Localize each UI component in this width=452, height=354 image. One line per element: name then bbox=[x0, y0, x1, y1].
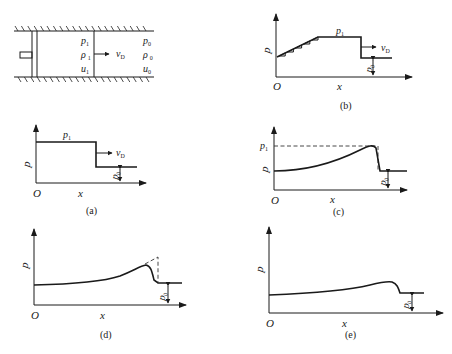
hatch-mark bbox=[50, 77, 53, 82]
origin-label: O bbox=[33, 187, 41, 199]
y-axis-label: p bbox=[257, 165, 270, 174]
x-axis-label: x bbox=[329, 193, 335, 205]
hatch-mark bbox=[44, 77, 47, 82]
y-axis-label: p bbox=[17, 261, 30, 270]
caption: (b) bbox=[340, 100, 352, 112]
pressure-profile bbox=[34, 265, 182, 285]
hatch-mark bbox=[66, 26, 69, 31]
hatch-mark bbox=[47, 26, 50, 31]
shock-wave-diagram: p1 ρ1 u1 vD p0 ρ0 u0 p O x p1 vD p0 (b) … bbox=[0, 0, 452, 354]
hatch-mark bbox=[143, 26, 146, 31]
caption: (d) bbox=[100, 329, 112, 341]
p0-label: p0 bbox=[362, 63, 375, 74]
hatch-mark bbox=[73, 26, 76, 31]
label-p0: p0 bbox=[142, 35, 151, 47]
piston-rod bbox=[20, 52, 32, 58]
y-axis-label: p bbox=[259, 46, 272, 55]
panel-a: p O x p1 vD p0 (a) bbox=[19, 125, 146, 217]
hatch-mark bbox=[53, 26, 56, 31]
origin-label: O bbox=[266, 317, 274, 329]
p1-label: p1 bbox=[335, 25, 344, 37]
hatch-mark bbox=[127, 77, 130, 82]
compression-steps bbox=[279, 37, 318, 56]
hatch-bottom bbox=[18, 77, 149, 82]
p1-label: p1 bbox=[62, 129, 71, 141]
hatch-mark bbox=[101, 77, 104, 82]
p0-label: p0 bbox=[399, 299, 412, 310]
panel-d: p O x p0 (d) bbox=[17, 229, 186, 341]
hatch-mark bbox=[124, 26, 127, 31]
y-axis-label: p bbox=[252, 265, 265, 274]
hatch-mark bbox=[117, 26, 120, 31]
ideal-profile-dashed bbox=[274, 146, 378, 171]
hatch-mark bbox=[56, 77, 59, 82]
origin-label: O bbox=[31, 309, 39, 321]
y-axis-label: p bbox=[19, 160, 32, 169]
hatch-mark bbox=[37, 77, 40, 82]
step-marker bbox=[312, 37, 318, 40]
hatch-mark bbox=[34, 26, 37, 31]
hatch-mark bbox=[98, 26, 101, 31]
pressure-profile bbox=[274, 146, 407, 171]
hatch-mark bbox=[60, 26, 63, 31]
hatch-mark bbox=[108, 77, 111, 82]
hatch-mark bbox=[82, 77, 85, 82]
panel-c: p1 p O x p0 (c) bbox=[257, 127, 407, 218]
vD-label: vD bbox=[116, 147, 125, 159]
label-u1: u1 bbox=[81, 63, 89, 75]
pressure-profile bbox=[269, 282, 424, 295]
x-axis-label: x bbox=[336, 80, 342, 92]
hatch-mark bbox=[130, 26, 133, 31]
tube-schematic: p1 ρ1 u1 vD p0 ρ0 u0 bbox=[14, 26, 154, 82]
label-rho1: ρ1 bbox=[80, 49, 91, 61]
hatch-mark bbox=[105, 26, 108, 31]
hatch-mark bbox=[28, 26, 31, 31]
origin-label: O bbox=[273, 80, 281, 92]
step-marker bbox=[287, 49, 293, 52]
hatch-mark bbox=[18, 77, 21, 82]
hatch-mark bbox=[88, 77, 91, 82]
hatch-mark bbox=[85, 26, 88, 31]
vD-label: vD bbox=[381, 42, 390, 54]
panel-b: p O x p1 vD p0 (b) bbox=[259, 14, 412, 112]
hatch-mark bbox=[140, 77, 143, 82]
label-p1: p1 bbox=[80, 35, 89, 47]
caption: (e) bbox=[345, 329, 356, 341]
p0-label: p0 bbox=[155, 291, 168, 302]
caption: (c) bbox=[333, 206, 344, 218]
hatch-mark bbox=[133, 77, 136, 82]
hatch-mark bbox=[137, 26, 140, 31]
x-axis-label: x bbox=[99, 309, 105, 321]
hatch-mark bbox=[24, 77, 27, 82]
hatch-mark bbox=[41, 26, 44, 31]
caption: (a) bbox=[86, 205, 97, 217]
label-u0: u0 bbox=[143, 63, 151, 75]
x-axis-label: x bbox=[77, 187, 83, 199]
p1-label: p1 bbox=[259, 140, 268, 152]
hatch-mark bbox=[79, 26, 82, 31]
hatch-mark bbox=[31, 77, 34, 82]
x-axis-label: x bbox=[341, 317, 347, 329]
label-rho0: ρ0 bbox=[142, 49, 153, 61]
hatch-mark bbox=[69, 77, 72, 82]
hatch-mark bbox=[21, 26, 24, 31]
hatch-mark bbox=[63, 77, 66, 82]
hatch-mark bbox=[76, 77, 79, 82]
panel-e: p O x p0 (e) bbox=[252, 227, 443, 341]
hatch-top bbox=[15, 26, 146, 31]
hatch-mark bbox=[95, 77, 98, 82]
hatch-mark bbox=[15, 26, 18, 31]
hatch-mark bbox=[111, 26, 114, 31]
step-marker bbox=[279, 53, 285, 56]
hatch-mark bbox=[146, 77, 149, 82]
origin-label: O bbox=[271, 194, 279, 206]
hatch-mark bbox=[92, 26, 95, 31]
hatch-mark bbox=[114, 77, 117, 82]
label-vD: vD bbox=[116, 48, 125, 60]
hatch-mark bbox=[120, 77, 123, 82]
step-marker bbox=[296, 45, 302, 48]
step-marker bbox=[304, 41, 310, 44]
